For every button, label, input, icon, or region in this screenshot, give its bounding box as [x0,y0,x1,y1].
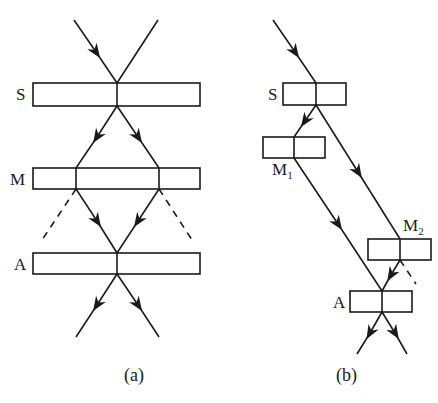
label-a-a: A [14,256,26,273]
label-m-a: M [10,171,25,188]
diagram-b [263,20,431,354]
label-s-b: S [268,86,277,103]
analyzer-a-box-b [350,291,412,312]
label-m2: M2 [403,217,424,237]
splitter-s-box-b [283,83,346,105]
caption-a: (a) [124,366,144,384]
caption-b: (b) [336,366,357,384]
dashed-ray [159,189,192,240]
label-m1: M1 [272,161,293,181]
label-a-b: A [333,294,345,311]
dashed-ray [400,260,416,284]
beam-splitter-diagram: S M A (a) S M1 M2 A (b) [0,0,438,403]
dashed-ray [42,189,76,240]
diagram-a [33,20,200,337]
incoming-ray-arrow [74,20,96,52]
mirror-m-box-a [33,168,200,189]
incoming-ray [117,20,158,83]
diagram-svg [0,0,438,403]
label-s-a: S [16,86,25,103]
